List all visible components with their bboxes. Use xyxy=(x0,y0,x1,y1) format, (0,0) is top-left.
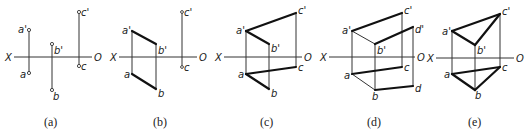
orthographic-projection-figure: X O a' a b' b c' c (a) X O a' a b' b c' … xyxy=(0,0,526,137)
label-a-prime: a' xyxy=(442,26,451,37)
point-a-prime xyxy=(27,28,30,31)
panel-d: X O a' a b' b c' c d' d (d) xyxy=(319,5,425,129)
label-d: d xyxy=(415,83,422,94)
point-c-prime xyxy=(181,11,184,14)
axis-label-x: X xyxy=(109,52,118,63)
label-a-prime: a' xyxy=(236,25,245,36)
segment-a-c xyxy=(246,67,296,74)
label-b: b xyxy=(475,90,481,101)
axis-label-o: O xyxy=(417,52,425,63)
label-a: a xyxy=(20,69,26,80)
segment-a-prime-c-prime xyxy=(246,13,296,31)
segment-a-prime-b-prime xyxy=(132,31,156,44)
axis-label-x: X xyxy=(319,52,328,63)
axis-label-x: X xyxy=(4,52,13,63)
label-c-prime: c' xyxy=(81,7,89,18)
label-c: c xyxy=(502,62,508,73)
label-c-prime: c' xyxy=(298,5,306,16)
point-c xyxy=(181,66,184,69)
label-b-prime: b' xyxy=(158,45,167,56)
axis-label-o: O xyxy=(516,53,524,64)
label-b-prime: b' xyxy=(477,45,486,56)
caption-c: (c) xyxy=(260,115,273,129)
segment-a-b xyxy=(352,74,375,90)
label-c: c xyxy=(184,62,190,73)
segment-b-prime-d-prime xyxy=(375,27,413,44)
axis-label-o: O xyxy=(304,52,312,63)
label-c: c xyxy=(81,61,87,72)
caption-d: (d) xyxy=(367,115,381,129)
segment-a-b xyxy=(132,74,156,89)
segment-b-d xyxy=(375,86,413,90)
axis-label-o: O xyxy=(94,52,102,63)
point-a xyxy=(27,71,30,74)
label-b: b xyxy=(158,88,164,99)
label-b: b xyxy=(53,91,59,102)
label-b: b xyxy=(271,88,277,99)
label-a: a xyxy=(238,69,244,80)
label-a-prime: a' xyxy=(122,25,131,36)
label-c: c xyxy=(298,62,304,73)
label-a-prime: a' xyxy=(342,25,351,36)
label-a: a xyxy=(444,69,450,80)
label-c-prime: c' xyxy=(502,6,510,17)
label-d-prime: d' xyxy=(415,24,424,35)
label-b-prime: b' xyxy=(271,43,280,54)
segment-a-prime-b-prime xyxy=(452,31,475,45)
segment-a-prime-b-prime xyxy=(352,31,375,44)
axis-label-x: X xyxy=(214,52,223,63)
label-b-prime: b' xyxy=(54,45,63,56)
label-c-prime: c' xyxy=(184,7,192,18)
segment-a-b xyxy=(246,74,269,89)
segment-a-prime-b-prime xyxy=(246,31,269,44)
panel-b: X O a' a b' b c' c (b) xyxy=(109,7,207,129)
axis-label-x: X xyxy=(426,53,435,64)
label-a: a xyxy=(124,69,130,80)
panel-e: X O a' a b' b c' c (e) xyxy=(426,6,524,129)
label-b-prime: b' xyxy=(377,45,386,56)
segment-a-prime-c-prime xyxy=(352,13,402,31)
label-a-prime: a' xyxy=(18,24,27,35)
label-a: a xyxy=(344,70,350,81)
label-c-prime: c' xyxy=(404,5,412,16)
label-b: b xyxy=(372,91,378,102)
caption-a: (a) xyxy=(44,115,57,129)
panel-c: X O a' a b' b c' c (c) xyxy=(214,5,312,129)
caption-e: (e) xyxy=(468,115,481,129)
panel-a: X O a' a b' b c' c (a) xyxy=(4,7,102,129)
segment-a-c xyxy=(352,67,402,74)
label-c: c xyxy=(404,62,410,73)
segment-a-b xyxy=(452,74,475,90)
caption-b: (b) xyxy=(153,115,167,129)
axis-label-o: O xyxy=(199,52,207,63)
